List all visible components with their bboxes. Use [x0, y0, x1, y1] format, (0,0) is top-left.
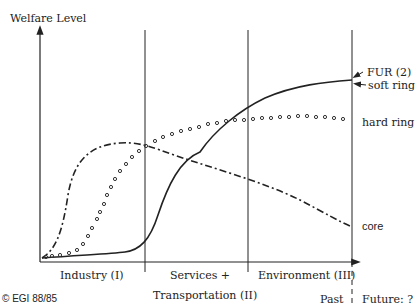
soft-ring-label: soft ring — [368, 80, 415, 91]
future-label: Future: ? — [362, 294, 413, 303]
phase-industry-label: Industry (I) — [60, 270, 124, 281]
phase-services-label-line1: Services + — [170, 270, 230, 281]
phase-environment-label: Environment (III) — [258, 270, 355, 281]
hard-ring-label: hard ring — [362, 117, 414, 128]
past-label: Past — [320, 294, 344, 303]
soft-ring-curve — [42, 80, 352, 258]
y-axis-label: Welfare Level — [10, 13, 86, 24]
hard-ring-curve — [44, 114, 344, 258]
core-label: core — [362, 221, 383, 232]
core-curve — [42, 143, 352, 258]
soft-ring-pointer-arrow — [357, 84, 366, 85]
phase-services-label-line2: Transportation (II) — [153, 290, 257, 301]
fur-label: FUR (2) — [367, 67, 411, 78]
fur-pointer-arrow — [356, 72, 363, 76]
copyright-label: © EGI 88/85 — [2, 294, 57, 303]
